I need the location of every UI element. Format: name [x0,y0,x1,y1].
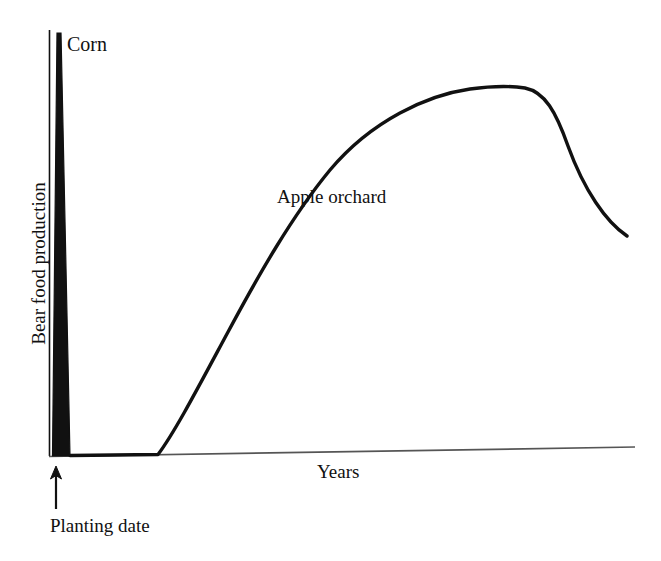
series-label-corn: Corn [67,34,107,54]
series-label-apple-orchard: Apple orchard [277,187,386,206]
chart-figure: Corn Apple orchard Years Planting date B… [0,0,661,561]
series-line-corn [53,33,71,456]
planting-date-arrow-icon [51,466,62,509]
y-axis-label: Bear food production [29,149,48,379]
series-line-apple-orchard [70,87,627,456]
x-axis-label: Years [317,462,359,481]
planting-date-label: Planting date [50,516,150,535]
